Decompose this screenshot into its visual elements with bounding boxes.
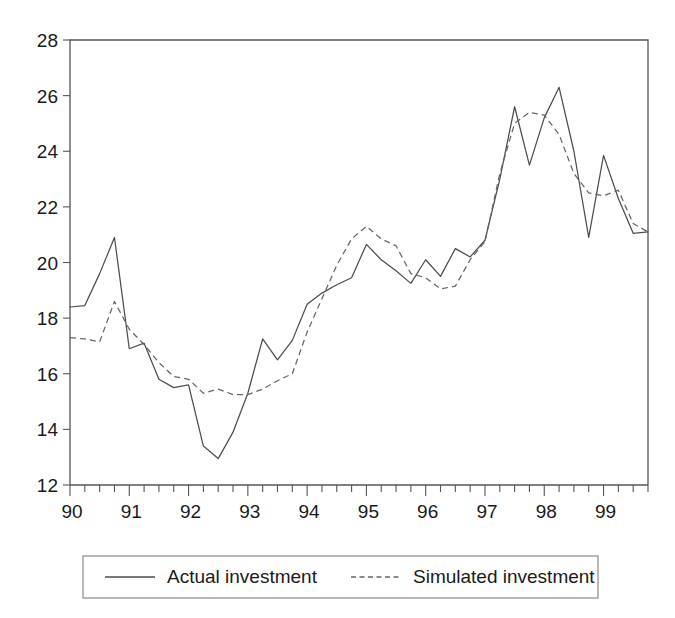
x-tick-label-90: 90 [61, 501, 82, 522]
y-tick-label-24: 24 [37, 141, 59, 162]
chart-figure: 121416182022242628 90919293949596979899 … [0, 0, 675, 618]
investment-line-chart: 121416182022242628 90919293949596979899 … [0, 0, 675, 618]
legend-label-simulated-investment: Simulated investment [413, 566, 595, 587]
y-tick-label-18: 18 [37, 308, 58, 329]
y-tick-label-12: 12 [37, 475, 58, 496]
chart-background [0, 0, 675, 618]
chart-legend: Actual investment Simulated investment [83, 556, 598, 598]
y-tick-label-28: 28 [37, 30, 58, 51]
x-tick-label-91: 91 [121, 501, 142, 522]
x-tick-label-92: 92 [180, 501, 201, 522]
y-tick-label-14: 14 [37, 419, 59, 440]
x-tick-label-93: 93 [239, 501, 260, 522]
x-tick-label-97: 97 [476, 501, 497, 522]
legend-label-actual-investment: Actual investment [167, 566, 318, 587]
y-tick-label-16: 16 [37, 364, 58, 385]
y-tick-label-26: 26 [37, 86, 58, 107]
x-tick-label-99: 99 [595, 501, 616, 522]
x-tick-label-98: 98 [536, 501, 557, 522]
x-tick-label-94: 94 [299, 501, 321, 522]
x-tick-label-95: 95 [358, 501, 379, 522]
y-tick-label-22: 22 [37, 197, 58, 218]
y-tick-label-20: 20 [37, 253, 58, 274]
x-tick-label-96: 96 [417, 501, 438, 522]
